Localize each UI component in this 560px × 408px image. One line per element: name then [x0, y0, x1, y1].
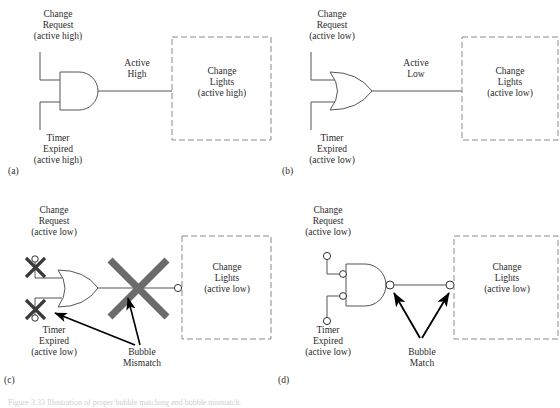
panel-a-input-bottom-label: Timer Expired (active high): [8, 133, 108, 167]
panel-d-annotation-label: Bubble Match: [390, 347, 454, 369]
panel-d-id: (d): [278, 375, 289, 385]
figure-bubble-matching: Change Request (active high) Timer Expir…: [0, 0, 560, 408]
input-bubble-gate-bottom-d: [340, 293, 347, 300]
input-wire-bottom-d: [327, 296, 340, 317]
panel-a-signal-label: Active High: [106, 58, 168, 80]
panel-b-input-bottom-label: Timer Expired (active low): [282, 133, 382, 167]
panel-c-annotation-label: Bubble Mismatch: [108, 347, 176, 369]
panel-c-id: (c): [4, 375, 15, 385]
panel-d-input-bottom-label: Timer Expired (active low): [278, 325, 378, 359]
and-gate-a: [60, 72, 98, 110]
or-gate-b: [330, 72, 372, 110]
source-bubble-bottom-d: [323, 317, 330, 324]
panel-a-input-top-label: Change Request (active high): [8, 9, 108, 43]
input-wire-bottom-a: [40, 102, 60, 130]
panel-d-load-label: Change Lights (active low): [460, 262, 554, 296]
figure-caption: Figure 3.33 Illustration of proper bubbl…: [8, 398, 242, 408]
annotation-arrow-right-c: [128, 298, 140, 345]
or-gate-c: [58, 270, 98, 307]
panel-b-id: (b): [282, 166, 293, 176]
load-bubble-d: [446, 281, 454, 289]
panel-c-input-top-label: Change Request (active low): [4, 205, 104, 239]
source-bubble-top-d: [323, 252, 330, 259]
input-wire-top-d: [327, 260, 340, 274]
input-bubble-gate-top-d: [340, 271, 347, 278]
input-wire-top-b: [311, 52, 335, 80]
input-wire-bottom-b: [311, 102, 335, 130]
annotation-arrow-left-d: [394, 293, 420, 338]
panel-a-load-label: Change Lights (active high): [177, 66, 267, 100]
panel-b-load-label: Change Lights (active low): [465, 66, 555, 100]
nand-gate-d: [346, 264, 386, 306]
panel-b-input-top-label: Change Request (active low): [282, 9, 382, 43]
panel-c-load-label: Change Lights (active low): [183, 262, 271, 296]
input-wire-top-a: [40, 52, 60, 80]
panel-c-input-bottom-label: Timer Expired (active low): [4, 325, 104, 359]
input-bubble-bottom-c: [32, 315, 38, 321]
annotation-arrow-right-d: [422, 293, 449, 338]
panel-b-signal-label: Active Low: [385, 58, 447, 80]
load-bubble-c: [174, 284, 181, 291]
input-bubble-top-c: [32, 256, 38, 262]
output-bubble-d: [386, 281, 394, 289]
panel-a-id: (a): [8, 166, 19, 176]
panel-d-input-top-label: Change Request (active low): [278, 205, 378, 239]
